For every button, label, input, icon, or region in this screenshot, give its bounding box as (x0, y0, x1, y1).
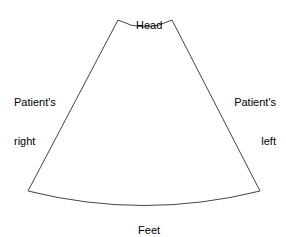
sector-orientation-diagram: Head Patient's right Patient's left Feet (0, 0, 286, 237)
label-patient-left: Patient's left (196, 70, 276, 174)
label-head-text: Head (136, 19, 162, 31)
label-patient-right-line2: right (14, 135, 94, 148)
label-feet: Feet (0, 211, 286, 237)
label-patient-right: Patient's right (14, 70, 94, 174)
label-patient-right-line1: Patient's (14, 96, 94, 109)
label-patient-left-line2: left (196, 135, 276, 148)
label-feet-text: Feet (138, 224, 160, 236)
label-patient-left-line1: Patient's (196, 96, 276, 109)
label-head: Head (0, 6, 286, 45)
